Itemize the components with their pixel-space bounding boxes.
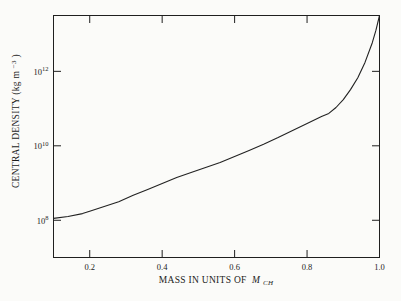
x-tick-label: 1.0 [374,262,385,272]
density-curve-group [54,16,380,219]
x-tick-label: 0.4 [157,262,168,272]
x-axis-tick-labels: 0.20.40.60.81.0 [84,262,384,272]
y-tick-label: 108 [37,214,49,226]
x-axis-ticks [90,16,380,258]
x-axis-label: MASS IN UNITS OF M CH [159,275,274,287]
y-tick-base: 10 [34,141,43,151]
x-tick-label: 0.8 [302,262,313,272]
y-tick-exponent: 10 [42,140,49,147]
units-exponent: −3 [10,60,18,68]
y-tick-exponent: 12 [42,65,49,72]
y-tick-label: 1010 [34,140,49,152]
y-tick-label: 1012 [34,65,49,77]
y-axis-label: CENTRAL DENSITY (kg m −3 ) [8,54,23,188]
y-axis-ticks [54,71,380,220]
y-tick-base: 10 [34,67,43,77]
y-tick-base: 10 [37,216,46,226]
x-tick-label: 0.2 [84,262,95,272]
plot-border [54,16,380,258]
mass-symbol: M [251,275,261,285]
mass-symbol-subscript: CH [263,279,274,287]
central-density-mass-chart: 0.20.40.60.81.0 10810101012 MASS IN UNIT… [0,0,401,301]
density-curve [54,16,380,219]
x-axis-label-text: MASS IN UNITS OF [159,275,250,285]
y-tick-exponent: 8 [45,214,48,221]
figure-page: 0.20.40.60.81.0 10810101012 MASS IN UNIT… [0,0,401,301]
x-tick-label: 0.6 [229,262,240,272]
y-axis-label-close-paren: ) [11,54,22,57]
y-axis-tick-labels: 10810101012 [34,65,49,225]
y-axis-label-text: CENTRAL DENSITY (kg m [11,71,22,189]
